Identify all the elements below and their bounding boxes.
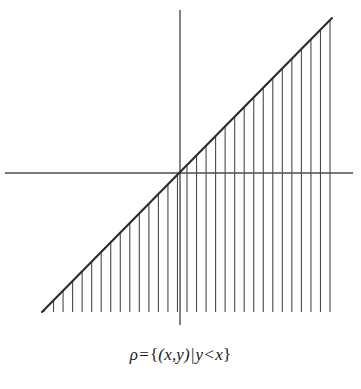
caption-close-brace: }	[223, 345, 231, 364]
caption-equals: =	[138, 345, 150, 364]
relation-plot-canvas	[0, 0, 361, 389]
caption-tuple: (x,y)	[158, 345, 190, 364]
caption-condition-right: x	[215, 345, 223, 364]
caption-condition-operator: <	[203, 345, 215, 364]
figure-caption: ρ={(x,y)|y<x}	[0, 345, 361, 365]
relation-figure: ρ={(x,y)|y<x}	[0, 0, 361, 389]
caption-relation-symbol: ρ	[130, 345, 138, 364]
